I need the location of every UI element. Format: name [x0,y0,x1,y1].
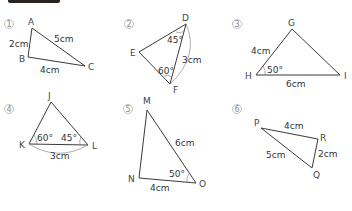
angle-o-arc [187,174,189,182]
vertex-r: R [320,133,326,143]
vertex-g: G [288,18,295,28]
side-pr-label: 4cm [284,121,303,131]
triangle-pqr [261,128,318,168]
vertex-b: B [19,54,25,64]
angle-o-label: 50° [169,169,185,179]
vertex-l: L [92,141,97,151]
angle-h-label: 50° [267,65,283,75]
vertex-n: N [128,174,135,184]
problem-number: 2 [126,20,131,29]
side-pq-label: 5cm [266,150,285,160]
problem-number: 1 [6,20,11,29]
vertex-c: C [88,62,94,72]
angle-d-label: 45° [167,35,183,45]
problem-2: 2 D E F 45° 60° 3cm [125,13,202,95]
vertex-a: A [28,17,35,27]
side-df-label: 3cm [182,55,201,65]
vertex-j: J [47,91,51,101]
side-ac-label: 5cm [54,34,73,44]
side-no-label: 4cm [150,183,169,193]
vertex-o: O [199,179,206,189]
vertex-d: D [182,13,189,23]
side-hi-label: 6cm [286,79,305,89]
angle-k-label: 60° [37,133,53,143]
side-mo-label: 6cm [175,138,194,148]
angle-h-arc [263,66,265,75]
problem-number: 6 [234,105,239,114]
angle-l-label: 45° [61,133,77,143]
vertex-p: P [254,118,260,128]
vertex-q: Q [313,170,320,180]
problem-6: 6 P R Q 4cm 5cm 2cm [233,105,338,181]
angle-d-arc [176,31,184,33]
problem-number: 3 [234,20,239,29]
angle-l-arc [80,137,81,145]
side-ab-label: 2cm [9,39,28,49]
problem-4: 4 J K L 60° 45° 3cm [5,91,98,161]
vertex-i: I [344,71,347,81]
vertex-k: K [19,140,26,150]
vertex-m: M [143,96,151,106]
vertex-h: H [245,71,252,81]
problem-5: 5 M N O 6cm 50° 4cm [124,96,207,193]
side-kl-label: 3cm [50,151,69,161]
side-gh-label: 4cm [251,46,270,56]
triangles-diagram: 1 A B C 2cm 5cm 4cm 2 D E F 45° 60° 3cm … [0,0,352,211]
side-qr-label: 2cm [318,149,337,159]
problem-1: 1 A B C 2cm 5cm 4cm [5,17,95,75]
angle-f-label: 60° [158,66,174,76]
vertex-e: E [130,48,136,58]
vertex-f: F [173,85,178,95]
problem-number: 4 [6,105,11,114]
problem-3: 3 G H I 4cm 50° 6cm [233,18,347,89]
side-bc-label: 4cm [40,65,59,75]
problem-number: 5 [125,105,130,114]
